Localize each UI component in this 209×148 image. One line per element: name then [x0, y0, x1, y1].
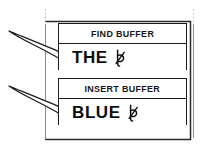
insert-buffer-label-row: INSERT BUFFER [59, 79, 186, 99]
insert-buffer-value: BLUE [72, 104, 121, 121]
find-buffer-value-row[interactable]: THE [59, 44, 186, 71]
text-cursor-icon [128, 104, 139, 122]
insert-buffer-panel: INSERT BUFFER BLUE [58, 78, 187, 125]
find-buffer-label: FIND BUFFER [91, 29, 154, 39]
insert-buffer-value-row[interactable]: BLUE [59, 99, 186, 126]
find-buffer-value: THE [72, 49, 108, 66]
find-buffer-panel: FIND BUFFER THE [58, 23, 187, 70]
diagram-canvas: FIND BUFFER THE INSERT BUFFER BLUE [0, 0, 209, 148]
text-cursor-icon [115, 49, 126, 67]
insert-buffer-label: INSERT BUFFER [85, 84, 161, 94]
find-buffer-label-row: FIND BUFFER [59, 24, 186, 44]
